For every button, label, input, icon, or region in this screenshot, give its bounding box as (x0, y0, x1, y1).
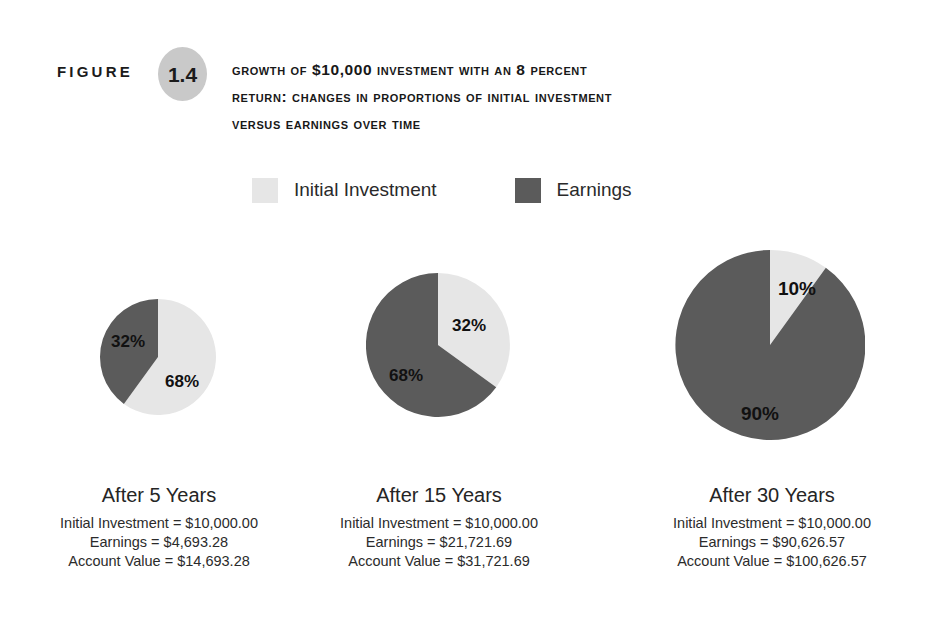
pie-value-label-initial-investment-15y: 32% (452, 316, 486, 335)
pie-svg-after-5-years: 32% 68% (90, 289, 226, 425)
pie-svg-after-15-years: 32% 68% (366, 273, 510, 417)
legend-swatch-icon-earnings (515, 178, 541, 203)
caption-account-value-30y: Account Value = $100,626.57 (636, 552, 908, 571)
chart-captions: After 5 Years Initial Investment = $10,0… (0, 482, 940, 592)
caption-initial-investment-15y: Initial Investment = $10,000.00 (308, 514, 570, 533)
pie-chart-after-5-years: 32% 68% (90, 289, 226, 425)
caption-initial-investment-5y: Initial Investment = $10,000.00 (28, 514, 290, 533)
caption-after-30-years: After 30 Years Initial Investment = $10,… (636, 482, 908, 571)
figure-title-line-3: versus Earnings Over Time (232, 110, 792, 137)
pie-value-label-earnings-15y: 68% (389, 366, 423, 385)
pie-value-label-earnings-5y: 32% (111, 332, 145, 351)
pie-svg-after-30-years: 10% 90% (675, 250, 865, 440)
pie-chart-after-15-years: 32% 68% (366, 273, 510, 417)
caption-title-after-5-years: After 5 Years (28, 482, 290, 508)
figure-number-badge: 1.4 (158, 47, 207, 101)
legend-item-earnings: Earnings (515, 178, 632, 203)
caption-earnings-5y: Earnings = $4,693.28 (28, 533, 290, 552)
caption-after-15-years: After 15 Years Initial Investment = $10,… (308, 482, 570, 571)
pie-value-label-earnings-30y: 90% (741, 403, 779, 424)
legend-swatch-icon-initial-investment (252, 178, 278, 203)
caption-account-value-15y: Account Value = $31,721.69 (308, 552, 570, 571)
caption-earnings-15y: Earnings = $21,721.69 (308, 533, 570, 552)
caption-title-after-15-years: After 15 Years (308, 482, 570, 508)
figure-title-line-2: Return: Changes in Proportions of Initia… (232, 83, 792, 110)
legend-label-earnings: Earnings (557, 179, 632, 201)
caption-earnings-30y: Earnings = $90,626.57 (636, 533, 908, 552)
caption-account-value-5y: Account Value = $14,693.28 (28, 552, 290, 571)
pie-chart-after-30-years: 10% 90% (675, 250, 865, 440)
legend-item-initial-investment: Initial Investment (252, 178, 437, 203)
caption-title-after-30-years: After 30 Years (636, 482, 908, 508)
figure-header: Figure 1.4 Growth of $10,000 Investment … (0, 0, 940, 170)
caption-after-5-years: After 5 Years Initial Investment = $10,0… (28, 482, 290, 571)
figure-title: Growth of $10,000 Investment with an 8 P… (232, 56, 792, 137)
pie-value-label-initial-investment-30y: 10% (778, 278, 816, 299)
figure-title-line-1: Growth of $10,000 Investment with an 8 P… (232, 56, 792, 83)
pie-chart-group: 32% 68% 32% 68% 10% 90% (0, 206, 940, 496)
figure-number: 1.4 (168, 64, 197, 85)
legend-label-initial-investment: Initial Investment (294, 179, 437, 201)
chart-legend: Initial Investment Earnings (252, 176, 632, 204)
figure-label: Figure (57, 63, 133, 80)
pie-value-label-initial-investment-5y: 68% (165, 372, 199, 391)
caption-initial-investment-30y: Initial Investment = $10,000.00 (636, 514, 908, 533)
